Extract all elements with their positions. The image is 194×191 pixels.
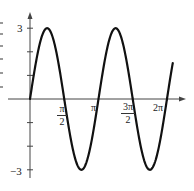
pi-half-numerator: π [57,104,67,116]
x-tick-label-2pi: 2π [153,103,163,113]
x-axis-arrow-icon [179,97,186,102]
cropped-text-fragment [0,72,3,74]
y-axis-arrow-icon [28,12,33,19]
pi-half-denominator: 2 [57,116,67,127]
sine-chart [0,0,194,191]
x-tick-label-pi-half: π 2 [57,104,67,127]
cropped-text-fragment [0,45,3,47]
three-pi-half-denominator: 2 [121,114,135,125]
cropped-text-fragment [0,33,3,35]
y-tick-label-neg3: −3 [10,166,22,177]
cropped-text-fragment [0,86,3,88]
y-tick-label-3: 3 [17,23,23,34]
cropped-text-fragment [0,58,3,60]
cropped-text-fragment [0,22,3,24]
x-tick-label-pi: π [91,103,96,113]
x-tick-label-3pi-half: 3π 2 [121,102,135,125]
three-pi-half-numerator: 3π [121,102,135,114]
